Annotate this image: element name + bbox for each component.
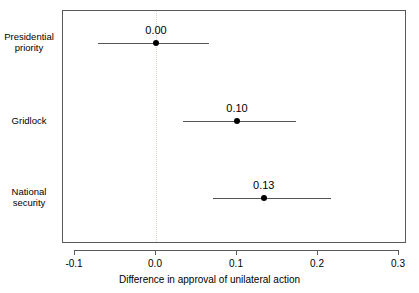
x-axis-tick-label: 0.1: [229, 258, 243, 270]
point-estimate-marker: [153, 40, 159, 46]
x-axis-tick: [236, 250, 237, 255]
x-axis-tick: [398, 250, 399, 255]
x-axis-tick-label: -0.1: [65, 258, 82, 270]
point-estimate-marker: [261, 195, 267, 201]
category-label-line: Gridlock: [0, 114, 58, 125]
category-label-line: Presidential: [0, 31, 58, 42]
y-axis-category-label: Nationalsecurity: [0, 186, 58, 208]
x-axis-title: Difference in approval of unilateral act…: [0, 274, 419, 286]
confidence-interval-bar: [213, 198, 331, 199]
x-axis-tick: [317, 250, 318, 255]
x-axis-tick: [74, 250, 75, 255]
point-estimate-marker: [234, 118, 240, 124]
x-axis-tick-label: 0.2: [310, 258, 324, 270]
x-axis-tick: [155, 250, 156, 255]
plot-panel: 0.000.100.13: [62, 10, 406, 243]
y-axis-category-label: Presidentialpriority: [0, 31, 58, 53]
point-estimate-label: 0.10: [226, 102, 247, 114]
coefficient-plot-figure: PresidentialpriorityGridlockNationalsecu…: [0, 0, 419, 293]
category-label-line: priority: [0, 42, 58, 53]
x-axis-tick-label: 0.0: [148, 258, 162, 270]
category-label-line: National: [0, 186, 58, 197]
y-axis-category-label: Gridlock: [0, 114, 58, 125]
point-estimate-label: 0.00: [145, 24, 166, 36]
category-label-line: security: [0, 197, 58, 208]
x-axis-tick-label: 0.3: [391, 258, 405, 270]
point-estimate-label: 0.13: [253, 179, 274, 191]
y-axis-category-labels: PresidentialpriorityGridlockNationalsecu…: [0, 10, 58, 243]
